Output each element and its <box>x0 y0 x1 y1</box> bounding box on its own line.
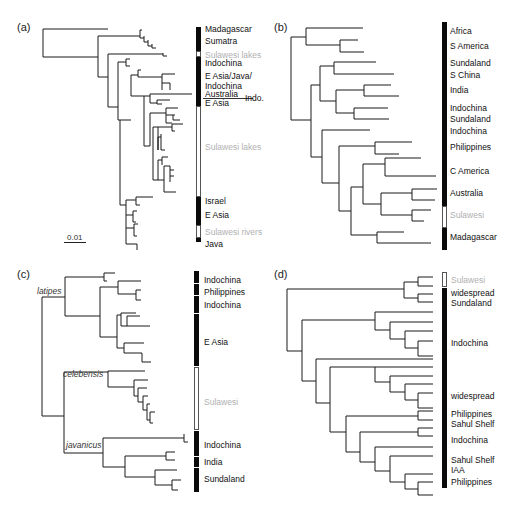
region-label: Sulawesi <box>451 276 485 285</box>
region-label: Indochina <box>451 339 488 348</box>
region-label: widespread <box>451 289 494 298</box>
region-label: Indochina <box>451 436 488 445</box>
region-label: Sahul Shelf <box>451 456 494 465</box>
region-bar-indochina-2 <box>442 428 447 456</box>
region-bar-sahul-shelf-2 <box>442 456 447 464</box>
region-bar-indochina <box>442 307 447 382</box>
region-label: widespread <box>451 392 494 401</box>
region-bar-iaa <box>442 464 447 472</box>
phylogenetic-tree-d <box>0 0 514 505</box>
region-bar-sahul-shelf <box>442 418 447 428</box>
region-label: Sundaland <box>451 299 492 308</box>
region-bar-widespread <box>442 288 447 297</box>
panel-d: (d) Sulawesi widespread Sundaland Indoch… <box>0 0 514 505</box>
region-bar-philippines-2 <box>442 472 447 488</box>
region-label: IAA <box>451 466 465 475</box>
region-bar-sundaland <box>442 297 447 307</box>
region-bar-sulawesi <box>442 272 447 287</box>
region-label: Philippines <box>451 478 492 487</box>
region-bar-philippines <box>442 409 447 418</box>
region-bar-widespread-2 <box>442 382 447 409</box>
region-label: Sahul Shelf <box>451 420 494 429</box>
region-label: Philippines <box>451 410 492 419</box>
